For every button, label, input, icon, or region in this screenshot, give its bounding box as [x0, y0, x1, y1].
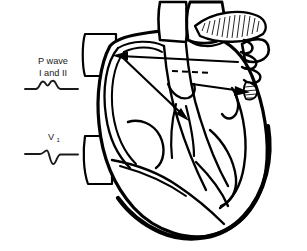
ecg-waveform-v1: [25, 151, 78, 165]
heart-p-wave-figure: P wave I and II V 1: [0, 0, 307, 251]
ecg-label-v1-main: V: [48, 132, 55, 142]
ecg-trace-p-wave-lead-i-ii: P wave I and II: [25, 56, 78, 89]
ecg-label-p-wave-line2: I and II: [39, 68, 67, 78]
ecg-waveform-p-wave: [25, 81, 78, 89]
ecg-trace-p-wave-lead-v1: V 1: [25, 132, 78, 164]
ecg-label-p-wave-line1: P wave: [38, 56, 68, 66]
pulmonary-artery: [159, 2, 188, 42]
figure-canvas: P wave I and II V 1: [0, 0, 307, 251]
ecg-panel: P wave I and II V 1: [25, 56, 78, 164]
heart-diagram: [83, 2, 270, 239]
ecg-label-v1-subscript: 1: [57, 136, 61, 143]
